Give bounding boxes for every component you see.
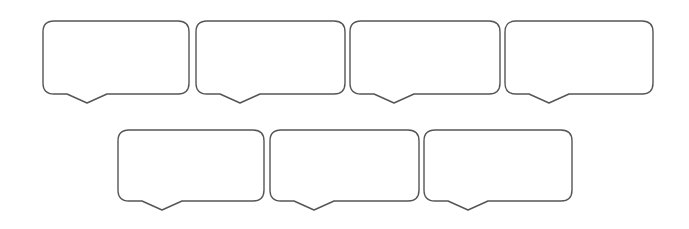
speech-bubble[interactable] bbox=[41, 19, 191, 105]
speech-bubble[interactable] bbox=[422, 128, 574, 212]
speech-bubble-shape bbox=[116, 128, 266, 212]
speech-bubble[interactable] bbox=[503, 19, 655, 105]
speech-bubble[interactable] bbox=[194, 19, 347, 105]
speech-bubble-shape bbox=[268, 128, 421, 212]
speech-bubble-shape bbox=[422, 128, 574, 212]
speech-bubble-shape bbox=[348, 19, 502, 105]
speech-bubble-shape bbox=[41, 19, 191, 105]
speech-bubble[interactable] bbox=[268, 128, 421, 212]
speech-bubble-diagram bbox=[0, 0, 689, 229]
speech-bubble-shape bbox=[503, 19, 655, 105]
speech-bubble-shape bbox=[194, 19, 347, 105]
speech-bubble[interactable] bbox=[348, 19, 502, 105]
speech-bubble[interactable] bbox=[116, 128, 266, 212]
